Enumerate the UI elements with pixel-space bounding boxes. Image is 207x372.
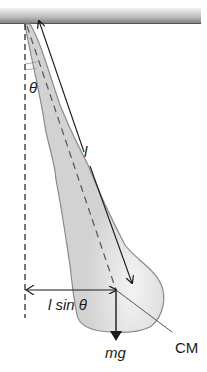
length-label: l xyxy=(84,144,87,159)
theta-label: θ xyxy=(29,80,37,95)
weight-arrow-head-icon xyxy=(110,331,122,341)
cm-label: CM xyxy=(175,340,198,355)
weight-label: mg xyxy=(105,345,126,360)
pendulum-diagram xyxy=(0,0,207,372)
ceiling-bar xyxy=(0,8,201,24)
lever-arm-label: l sin θ xyxy=(48,297,87,312)
